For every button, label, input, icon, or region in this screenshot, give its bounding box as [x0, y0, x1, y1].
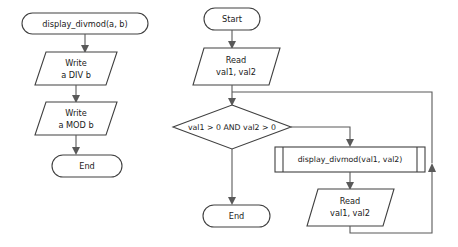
- node-label-decision: val1 > 0 AND val2 > 0: [188, 123, 276, 132]
- connector-write-mod-to-end: [72, 135, 80, 155]
- node-label-write-div-line2: a DIV b: [61, 70, 91, 80]
- node-label-main-end: End: [229, 211, 245, 221]
- node-label-read-2-line2: val1, val2: [330, 208, 370, 218]
- connector-start-to-write-div: [81, 34, 89, 53]
- node-call-display-divmod[interactable]: display_divmod(val1, val2): [275, 147, 425, 172]
- node-main-start[interactable]: Start: [204, 8, 260, 30]
- connector-decision-to-end: [228, 149, 236, 205]
- node-label-display-divmod-start: display_divmod(a, b): [42, 19, 127, 29]
- node-label-write-div-line1: Write: [65, 58, 87, 68]
- node-write-a-mod-b[interactable]: Write a MOD b: [35, 102, 117, 135]
- flowchart-diagram: display_divmod(a, b) Write a DIV b: [0, 0, 458, 247]
- node-label-main-start: Start: [222, 14, 243, 24]
- subprogram-diagram: display_divmod(a, b) Write a DIV b: [22, 13, 148, 177]
- node-label-write-mod-line1: Write: [65, 108, 87, 118]
- node-label-call-display-divmod: display_divmod(val1, val2): [298, 155, 403, 164]
- node-read-values-first[interactable]: Read val1, val2: [193, 48, 280, 85]
- node-label-subprogram-end: End: [79, 161, 95, 171]
- node-label-read-1-line2: val1, val2: [216, 67, 256, 77]
- io-shape: [35, 102, 117, 135]
- connector-start-to-read-1: [228, 30, 236, 49]
- node-label-read-1-line1: Read: [226, 55, 247, 65]
- node-read-values-second[interactable]: Read val1, val2: [307, 189, 394, 226]
- main-program-diagram: Start Read val1, val2 val1 > 0 AND: [173, 8, 436, 233]
- connector-read-1-to-decision: [228, 85, 236, 106]
- node-display-divmod-start[interactable]: display_divmod(a, b): [22, 13, 148, 34]
- node-label-write-mod-line2: a MOD b: [58, 120, 93, 130]
- connector-write-div-to-write-mod: [72, 85, 80, 103]
- connector-decision-to-call: [291, 127, 354, 147]
- node-decision-values-positive[interactable]: val1 > 0 AND val2 > 0: [173, 105, 291, 149]
- connector-call-to-read-2: [346, 172, 354, 190]
- flowchart-canvas: display_divmod(a, b) Write a DIV b: [0, 0, 458, 247]
- node-subprogram-end[interactable]: End: [52, 155, 122, 177]
- io-shape: [35, 52, 117, 85]
- node-write-a-div-b[interactable]: Write a DIV b: [35, 52, 117, 85]
- node-main-end[interactable]: End: [203, 205, 270, 227]
- node-label-read-2-line1: Read: [340, 196, 361, 206]
